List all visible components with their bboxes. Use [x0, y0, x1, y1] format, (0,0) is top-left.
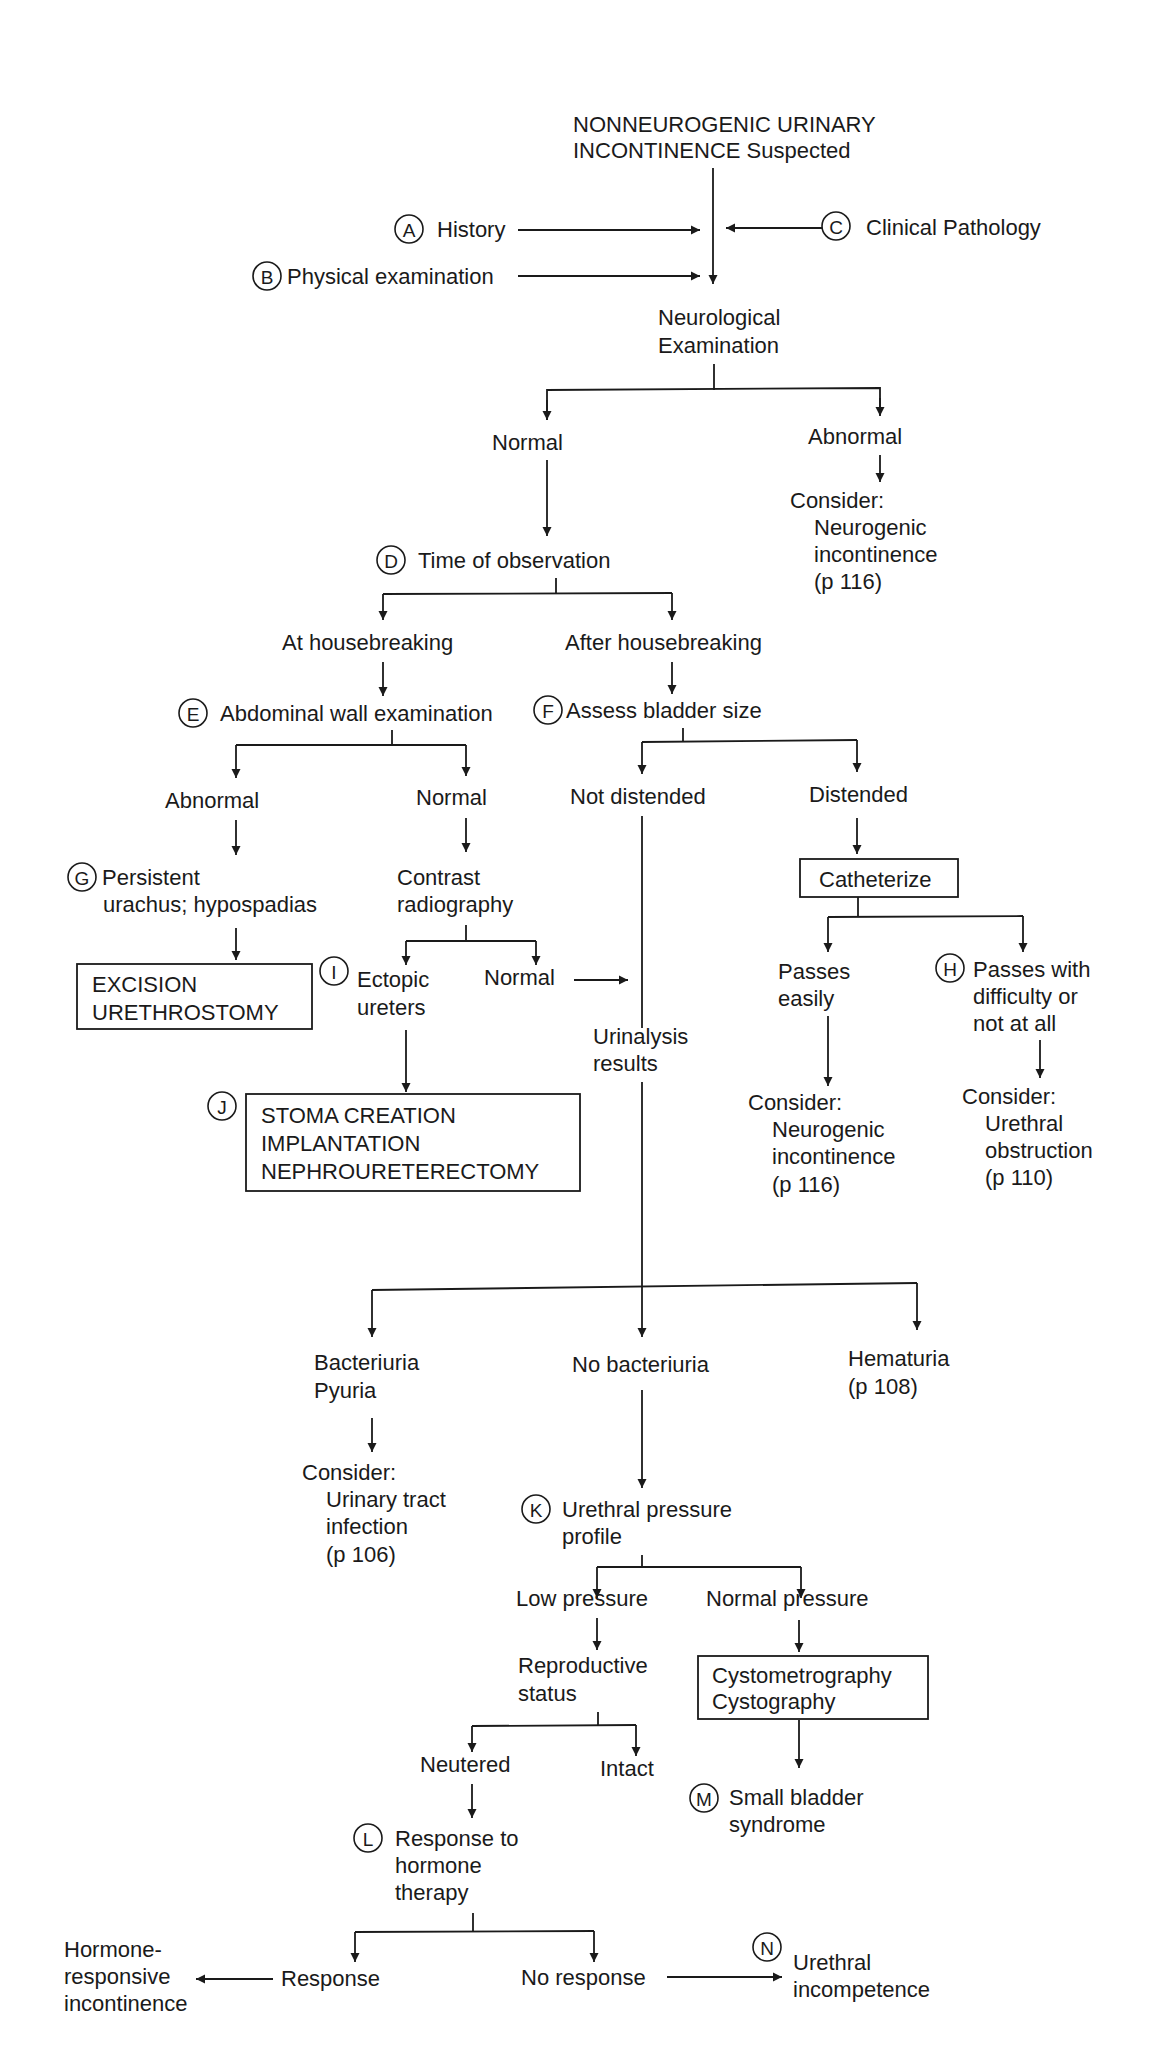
- hormone-responsive-node: Hormone- responsive incontinence: [64, 1937, 188, 2016]
- text-line: Consider:: [302, 1460, 396, 1485]
- abdominal-abnormal-label: Abnormal: [165, 788, 259, 813]
- text-line: Persistent: [102, 865, 200, 890]
- badge-d-letter: D: [384, 551, 398, 572]
- bacteriuria-node: Bacteriuria Pyuria: [314, 1350, 420, 1403]
- text-line: Ectopic: [357, 967, 429, 992]
- persistent-urachus-node: G Persistent urachus; hypospadias: [68, 863, 317, 917]
- contrast-radiography-node: Contrast radiography: [397, 865, 513, 917]
- passes-with-difficulty-node: H Passes with difficulty or not at all: [936, 954, 1090, 1036]
- text-line: responsive: [64, 1964, 170, 1989]
- neuro-line-2: Examination: [658, 333, 779, 358]
- badge-m-letter: M: [696, 1789, 712, 1810]
- bladder-size-node: F Assess bladder size: [534, 696, 762, 724]
- text-line: Cystometrography: [712, 1663, 892, 1688]
- stoma-creation-box: J STOMA CREATION IMPLANTATION NEPHROURET…: [208, 1092, 580, 1191]
- branch-connector: [642, 740, 857, 742]
- time-of-observation-node: D Time of observation: [377, 546, 610, 574]
- flowchart: NONNEUROGENIC URINARY INCONTINENCE Suspe…: [0, 0, 1160, 2049]
- urethral-obstruction-consider-node: Consider: Urethral obstruction (p 110): [962, 1084, 1093, 1190]
- branch-connector: [355, 1931, 594, 1932]
- urethral-incompetence-node: N Urethral incompetence: [753, 1933, 930, 2002]
- passes-easily-node: Passes easily: [778, 959, 850, 1011]
- normal-pressure-label: Normal pressure: [706, 1586, 869, 1611]
- badge-b-letter: B: [261, 267, 274, 288]
- text-line: NEPHROURETERECTOMY: [261, 1159, 540, 1184]
- distended-label: Distended: [809, 782, 908, 807]
- text-line: radiography: [397, 892, 513, 917]
- clinical-pathology-label: Clinical Pathology: [866, 215, 1041, 240]
- hormone-therapy-node: L Response to hormone therapy: [354, 1824, 519, 1905]
- abdominal-label: Abdominal wall examination: [220, 701, 493, 726]
- neuro-normal-label: Normal: [492, 430, 563, 455]
- text-line: obstruction: [985, 1138, 1093, 1163]
- branch-connector: [472, 1725, 636, 1726]
- text-line: Consider:: [790, 488, 884, 513]
- text-line: Response to: [395, 1826, 519, 1851]
- text-line: Neurogenic: [814, 515, 927, 540]
- catheterize-label: Catheterize: [819, 867, 932, 892]
- clinical-pathology-node: C Clinical Pathology: [822, 212, 1041, 240]
- text-line: Reproductive: [518, 1653, 648, 1678]
- small-bladder-node: M Small bladder syndrome: [690, 1784, 864, 1837]
- urinalysis-node: Urinalysis results: [593, 1024, 688, 1076]
- cath-neurogenic-consider-node: Consider: Neurogenic incontinence (p 116…: [748, 1090, 896, 1197]
- badge-h-letter: H: [943, 959, 957, 980]
- contrast-normal-label: Normal: [484, 965, 555, 990]
- text-line: profile: [562, 1524, 622, 1549]
- no-bacteriuria-label: No bacteriuria: [572, 1352, 710, 1377]
- title-node: NONNEUROGENIC URINARY INCONTINENCE Suspe…: [573, 112, 876, 163]
- text-line: (p 110): [985, 1165, 1053, 1190]
- branch-connector: [383, 593, 672, 594]
- history-label: History: [437, 217, 505, 242]
- low-pressure-label: Low pressure: [516, 1586, 648, 1611]
- uti-consider-node: Consider: Urinary tract infection (p 106…: [302, 1460, 446, 1567]
- text-line: Passes: [778, 959, 850, 984]
- text-line: Urethral: [985, 1111, 1063, 1136]
- badge-e-letter: E: [187, 704, 200, 725]
- neuro-abnormal-label: Abnormal: [808, 424, 902, 449]
- excision-urethrostomy-box: EXCISION URETHROSTOMY: [77, 964, 312, 1029]
- text-line: Cystography: [712, 1689, 836, 1714]
- badge-g-letter: G: [75, 868, 90, 889]
- badge-j-letter: J: [217, 1097, 227, 1118]
- badge-i-letter: I: [331, 962, 336, 983]
- urethral-pressure-node: K Urethral pressure profile: [522, 1495, 732, 1549]
- text-line: Neurogenic: [772, 1117, 885, 1142]
- ectopic-ureters-node: I Ectopic ureters: [320, 957, 429, 1020]
- text-line: incontinence: [814, 542, 938, 567]
- not-distended-label: Not distended: [570, 784, 706, 809]
- text-line: Urethral: [793, 1950, 871, 1975]
- text-line: Hormone-: [64, 1937, 162, 1962]
- branch-connector: [372, 1283, 917, 1290]
- after-housebreaking-label: After housebreaking: [565, 630, 762, 655]
- physical-exam-node: B Physical examination: [253, 262, 494, 290]
- text-line: difficulty or: [973, 984, 1078, 1009]
- title-line-1: NONNEUROGENIC URINARY: [573, 112, 876, 137]
- history-node: A History: [395, 215, 505, 243]
- text-line: Pyuria: [314, 1378, 377, 1403]
- text-line: syndrome: [729, 1812, 826, 1837]
- text-line: Hematuria: [848, 1346, 950, 1371]
- text-line: Passes with: [973, 957, 1090, 982]
- time-label: Time of observation: [418, 548, 610, 573]
- badge-k-letter: K: [530, 1500, 543, 1521]
- reproductive-status-node: Reproductive status: [518, 1653, 648, 1706]
- text-line: STOMA CREATION: [261, 1103, 456, 1128]
- text-line: IMPLANTATION: [261, 1131, 420, 1156]
- badge-l-letter: L: [363, 1829, 374, 1850]
- badge-n-letter: N: [760, 1938, 774, 1959]
- text-line: Contrast: [397, 865, 480, 890]
- text-line: Urinalysis: [593, 1024, 688, 1049]
- neutered-label: Neutered: [420, 1752, 511, 1777]
- neurogenic-consider-node: Consider: Neurogenic incontinence (p 116…: [790, 488, 938, 594]
- text-line: Consider:: [748, 1090, 842, 1115]
- neurological-exam-node: Neurological Examination: [658, 305, 780, 358]
- text-line: (p 106): [326, 1542, 396, 1567]
- cystometrography-box: Cystometrography Cystography: [698, 1656, 928, 1719]
- hematuria-node: Hematuria (p 108): [848, 1346, 950, 1399]
- text-line: ureters: [357, 995, 425, 1020]
- text-line: Small bladder: [729, 1785, 864, 1810]
- text-line: not at all: [973, 1011, 1056, 1036]
- title-line-2: INCONTINENCE Suspected: [573, 138, 851, 163]
- text-line: infection: [326, 1514, 408, 1539]
